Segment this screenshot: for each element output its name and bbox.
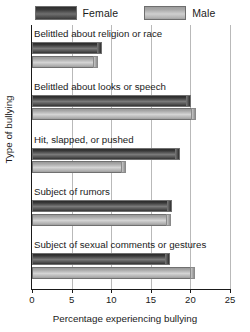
legend-label-female: Female — [83, 7, 119, 19]
x-axis-tick-label: 0 — [29, 294, 34, 305]
x-axis-tick — [230, 289, 231, 293]
bar-group: Subject of rumors — [32, 183, 230, 236]
bullying-bar-chart: Female Male 0510152025Belittled about re… — [0, 0, 250, 332]
x-axis-tick — [190, 289, 191, 293]
bar-group: Hit, slapped, or pushed — [32, 131, 230, 184]
chart-legend: Female Male — [0, 4, 250, 22]
bar-group: Belittled about religion or race — [32, 25, 230, 78]
bar-cap-male — [93, 56, 98, 68]
category-label: Subject of rumors — [34, 186, 110, 198]
plot-area: 0510152025Belittled about religion or ra… — [31, 25, 230, 290]
gridline — [230, 25, 231, 289]
bar-cap-male — [191, 108, 196, 120]
bar-cap-female — [175, 148, 180, 160]
bar-male — [32, 214, 170, 226]
bar-male — [32, 56, 97, 68]
bar-female — [32, 42, 101, 54]
x-axis-tick — [32, 289, 33, 293]
legend-entry-female: Female — [35, 6, 119, 20]
category-label: Hit, slapped, or pushed — [34, 134, 134, 146]
x-axis-tick-label: 5 — [69, 294, 74, 305]
category-label: Belittled about religion or race — [34, 28, 162, 40]
legend-label-male: Male — [192, 7, 215, 19]
bar-cap-male — [166, 214, 171, 226]
category-label: Belittled about looks or speech — [34, 81, 166, 93]
bar-male — [32, 108, 195, 120]
bar-male — [32, 161, 125, 173]
bar-female — [32, 148, 179, 160]
female-swatch-icon — [35, 6, 77, 20]
x-axis-tick-label: 15 — [146, 294, 157, 305]
bar-cap-female — [97, 42, 102, 54]
x-axis-title: Percentage experiencing bullying — [0, 313, 250, 324]
male-swatch-icon — [144, 6, 186, 20]
y-axis-title: Type of bullying — [3, 70, 14, 190]
x-axis-tick — [111, 289, 112, 293]
bar-cap-female — [167, 200, 172, 212]
bar-group: Belittled about looks or speech — [32, 78, 230, 131]
bar-female — [32, 253, 169, 265]
bar-cap-female — [165, 253, 170, 265]
bar-cap-male — [190, 267, 195, 279]
x-axis-tick-label: 10 — [106, 294, 117, 305]
x-axis-tick-label: 20 — [185, 294, 196, 305]
x-axis-tick-label: 25 — [225, 294, 236, 305]
bar-female — [32, 200, 171, 212]
bar-group: Subject of sexual comments or gestures — [32, 236, 230, 289]
x-axis-tick — [151, 289, 152, 293]
legend-entry-male: Male — [144, 6, 215, 20]
category-label: Subject of sexual comments or gestures — [34, 239, 206, 251]
bar-cap-male — [121, 161, 126, 173]
bar-female — [32, 95, 190, 107]
bar-cap-female — [186, 95, 191, 107]
bar-male — [32, 267, 194, 279]
x-axis-tick — [72, 289, 73, 293]
